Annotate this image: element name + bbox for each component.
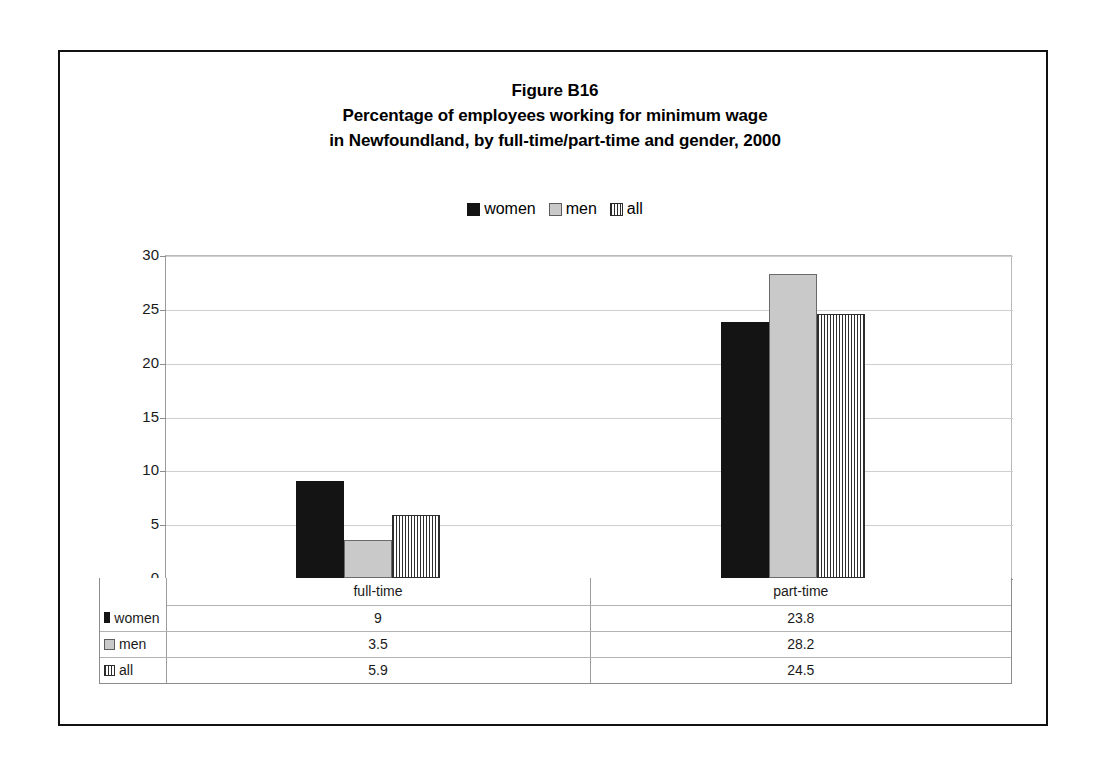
y-tick-label-5: 5 [115,516,159,531]
y-tick-label-30: 30 [115,247,159,262]
y-tick-label-15: 15 [115,409,159,424]
gridline-5 [166,525,1013,526]
table-cell-all-full-time: 5.9 [166,657,590,683]
table-row: all 5.9 24.5 [100,657,1011,683]
table-corner-cell [100,578,166,605]
bar-full-time-all [392,515,440,579]
table-header-part-time: part-time [590,578,1011,605]
y-tick-label-20: 20 [115,355,159,370]
table-row-label-all: all [119,662,133,678]
gridline-25 [166,310,1013,311]
table-row-label-women: women [114,610,159,626]
vertical-striped-square-icon [104,665,115,676]
y-tick-label-25: 25 [115,301,159,316]
y-tick-5 [160,525,166,526]
bar-full-time-women [296,481,344,578]
y-tick-25 [160,310,166,311]
gridline-15 [166,418,1013,419]
table-row-label-men: men [119,636,146,652]
table-header-full-time: full-time [166,578,590,605]
solid-gray-square-icon [104,639,115,650]
solid-black-square-icon [104,612,110,623]
gridline-30 [166,256,1013,257]
table-row-key-all: all [100,657,166,683]
table-cell-all-part-time: 24.5 [590,657,1011,683]
y-tick-20 [160,364,166,365]
y-axis-tick-labels: 0 5 10 15 20 25 30 [107,255,159,578]
chart-data-table: full-time part-time women 9 23.8 [99,578,1012,684]
y-tick-label-10: 10 [115,462,159,477]
gridline-10 [166,471,1013,472]
table-cell-women-part-time: 23.8 [590,605,1011,631]
bar-part-time-all [817,314,865,578]
table-cell-women-full-time: 9 [166,605,590,631]
y-tick-15 [160,418,166,419]
y-tick-30 [160,256,166,257]
plot-area [165,255,1012,578]
y-tick-10 [160,471,166,472]
data-table: full-time part-time women 9 23.8 [100,578,1011,683]
table-row: men 3.5 28.2 [100,631,1011,657]
bar-part-time-women [721,322,769,578]
table-cell-men-part-time: 28.2 [590,631,1011,657]
bar-full-time-men [344,540,392,578]
table-row-key-women: women [100,605,166,631]
table-row: women 9 23.8 [100,605,1011,631]
table-cell-men-full-time: 3.5 [166,631,590,657]
table-row-key-men: men [100,631,166,657]
figure-frame: Figure B16 Percentage of employees worki… [58,50,1048,726]
gridline-20 [166,364,1013,365]
table-header-row: full-time part-time [100,578,1011,605]
bar-part-time-men [769,274,817,578]
